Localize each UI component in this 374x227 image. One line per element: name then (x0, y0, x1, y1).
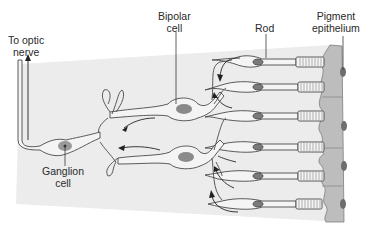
label-pigment-epithelium: Pigment epithelium (312, 10, 360, 34)
label-bipolar-cell: Bipolar cell (158, 10, 191, 34)
retina-panel (16, 45, 342, 222)
label-optic-nerve: To optic nerve (8, 34, 44, 58)
retina-diagram: To optic nerve Bipolar cell Rod Pigment … (0, 0, 374, 227)
label-rod: Rod (255, 22, 274, 34)
label-ganglion-cell: Ganglion cell (42, 165, 84, 189)
retina-illustration (0, 0, 374, 227)
